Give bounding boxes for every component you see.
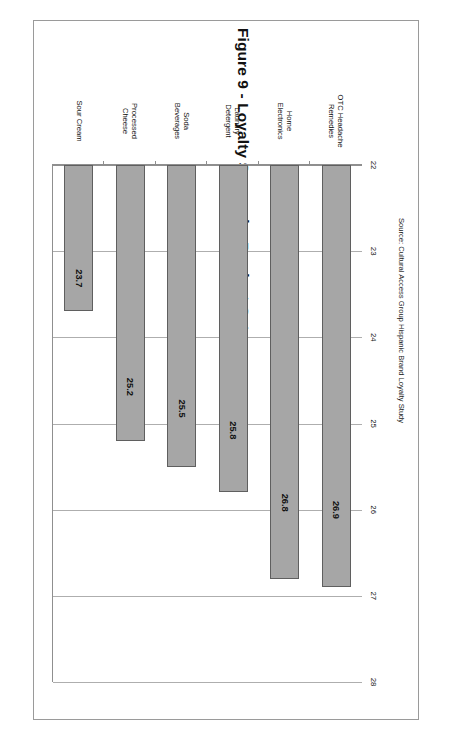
- bar[interactable]: 26.9: [321, 165, 350, 587]
- x-axis-tick-label: 25: [369, 419, 378, 428]
- bar[interactable]: 26.8: [270, 165, 299, 579]
- bar-value-label: 25.8: [228, 421, 238, 439]
- bar-chart: 22232425262728OTC HeadacheRemedies26.9Ho…: [48, 78, 378, 686]
- gridline-25: [53, 423, 362, 424]
- source-note: Source: Cultural Access Group Hispanic B…: [397, 218, 406, 423]
- category-label-line: Laundry: [233, 82, 242, 160]
- category-label-line: Detergent: [224, 82, 233, 160]
- x-axis-tick-label: 23: [369, 246, 378, 255]
- bar-value-label: 26.9: [331, 500, 341, 518]
- gridline-27: [53, 595, 362, 596]
- category-label: LaundryDetergent: [224, 82, 242, 160]
- category-label-line: OTC Headache: [336, 82, 345, 160]
- bar-row: SodaBeverages25.5: [167, 165, 196, 682]
- gridline-28: [53, 682, 362, 683]
- category-label-line: Beverages: [172, 82, 181, 160]
- plot-area: 22232425262728OTC HeadacheRemedies26.9Ho…: [52, 164, 362, 682]
- category-label-line: Processed: [130, 82, 139, 160]
- bar-row: HomeElectronics26.8: [270, 165, 299, 682]
- gridline-26: [53, 509, 362, 510]
- x-axis-tick-label: 27: [369, 591, 378, 600]
- category-label-line: Home: [284, 82, 293, 160]
- bar[interactable]: 25.2: [115, 165, 144, 441]
- bar-row: OTC HeadacheRemedies26.9: [321, 165, 350, 682]
- category-label: ProcessedCheese: [121, 82, 139, 160]
- x-axis-tick-label: 22: [369, 160, 378, 169]
- category-axis-tick: [103, 161, 104, 165]
- category-label: Sour Cream: [74, 82, 83, 160]
- category-axis-tick: [155, 161, 156, 165]
- bar-value-label: 25.5: [176, 399, 186, 417]
- bar-row: Sour Cream23.7: [64, 165, 93, 682]
- bar-value-label: 23.7: [73, 269, 83, 287]
- bar[interactable]: 25.8: [218, 165, 247, 492]
- x-axis-tick-label: 28: [369, 677, 378, 686]
- rotated-figure-canvas: Figure 9 - Loyalty Scores by Product Cat…: [34, 22, 420, 722]
- x-axis-tick-label: 24: [369, 332, 378, 341]
- category-axis-tick: [258, 161, 259, 165]
- gridline-24: [53, 337, 362, 338]
- bar-value-label: 25.2: [125, 377, 135, 395]
- category-label: OTC HeadacheRemedies: [327, 82, 345, 160]
- category-label-line: Electronics: [275, 82, 284, 160]
- category-label-line: Cheese: [121, 82, 130, 160]
- bar-row: LaundryDetergent25.8: [218, 165, 247, 682]
- bar[interactable]: 23.7: [64, 165, 93, 311]
- gridline-23: [53, 251, 362, 252]
- bar[interactable]: 25.5: [167, 165, 196, 467]
- category-axis-tick: [206, 161, 207, 165]
- x-axis-tick-label: 26: [369, 505, 378, 514]
- bar-row: ProcessedCheese25.2: [115, 165, 144, 682]
- category-label-line: Sour Cream: [74, 82, 83, 160]
- category-label: SodaBeverages: [172, 82, 190, 160]
- category-axis-tick: [309, 161, 310, 165]
- bar-value-label: 26.8: [279, 493, 289, 511]
- category-label-line: Soda: [181, 82, 190, 160]
- category-label: HomeElectronics: [275, 82, 293, 160]
- category-label-line: Remedies: [327, 82, 336, 160]
- page-root: Figure 9 - Loyalty Scores by Product Cat…: [0, 0, 453, 743]
